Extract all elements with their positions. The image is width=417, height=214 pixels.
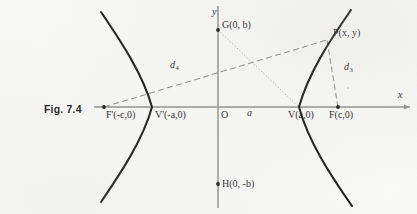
hyperbola-right-branch xyxy=(299,10,352,206)
dashed-line-d3 xyxy=(327,40,338,107)
label-co-vertex-top: G(0, b) xyxy=(222,20,251,30)
distance-d3-subscript: 3 xyxy=(349,66,352,73)
x-axis-label: x xyxy=(398,90,402,100)
x-axis-arrowhead xyxy=(404,105,410,110)
distance-d4-subscript: 4 xyxy=(175,64,178,71)
dashed-line-d4 xyxy=(104,40,327,107)
dotted-line-g-to-v xyxy=(218,30,299,107)
label-point-p: P(x, y) xyxy=(333,28,360,38)
label-focus-left: F'(-c,0) xyxy=(106,110,135,120)
label-focus-right: F(c,0) xyxy=(329,110,353,120)
dot-stray-speck xyxy=(347,87,349,89)
label-semi-axis-a: a xyxy=(247,108,252,118)
label-origin: O xyxy=(221,110,228,120)
distance-d4: d4 xyxy=(170,60,178,70)
label-co-vertex-bottom: H(0, -b) xyxy=(222,179,254,189)
label-vertex-left: V'(-a,0) xyxy=(155,110,186,120)
figure-caption: Fig. 7.4 xyxy=(44,103,82,115)
dot-co-vertex-top xyxy=(216,28,220,32)
distance-d3: d3 xyxy=(344,62,352,72)
dot-co-vertex-bottom xyxy=(216,182,220,186)
label-vertex-right: V(a,0) xyxy=(288,110,314,120)
y-axis-label: y xyxy=(212,7,216,17)
figure-container: Fig. 7.4 y x F'(-c,0) V'(-a,0) O a V(a,0… xyxy=(0,0,417,214)
